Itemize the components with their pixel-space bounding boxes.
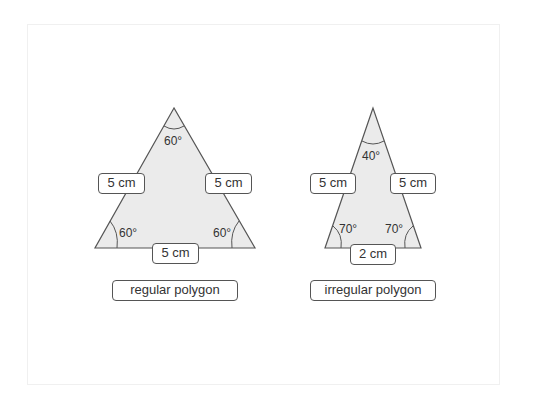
angle-right-irregular: 70°	[385, 222, 403, 236]
title-irregular: irregular polygon	[310, 280, 436, 301]
side-left-irregular: 5 cm	[310, 173, 356, 194]
angle-left-regular: 60°	[119, 226, 137, 240]
side-bottom-regular: 5 cm	[152, 243, 199, 264]
side-right-irregular: 5 cm	[390, 173, 436, 194]
side-right-regular: 5 cm	[205, 173, 252, 194]
angle-top-regular: 60°	[164, 134, 182, 148]
angle-right-regular: 60°	[213, 226, 231, 240]
side-left-regular: 5 cm	[98, 173, 145, 194]
side-bottom-irregular: 2 cm	[350, 244, 396, 265]
title-regular: regular polygon	[112, 280, 238, 301]
angle-top-irregular: 40°	[362, 149, 380, 163]
triangles-svg	[0, 0, 539, 410]
angle-left-irregular: 70°	[339, 222, 357, 236]
